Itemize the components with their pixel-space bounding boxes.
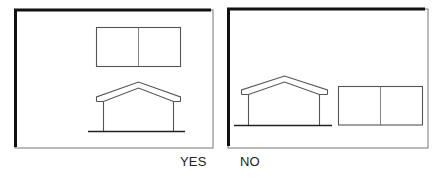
panel-yes (14, 9, 213, 148)
comparison-diagram (0, 0, 436, 178)
panel-no (227, 8, 428, 148)
caption-yes: YES (180, 154, 207, 169)
caption-no: NO (240, 154, 260, 169)
panel-yes-frame (15, 10, 213, 148)
panel-no-frame (228, 9, 428, 148)
